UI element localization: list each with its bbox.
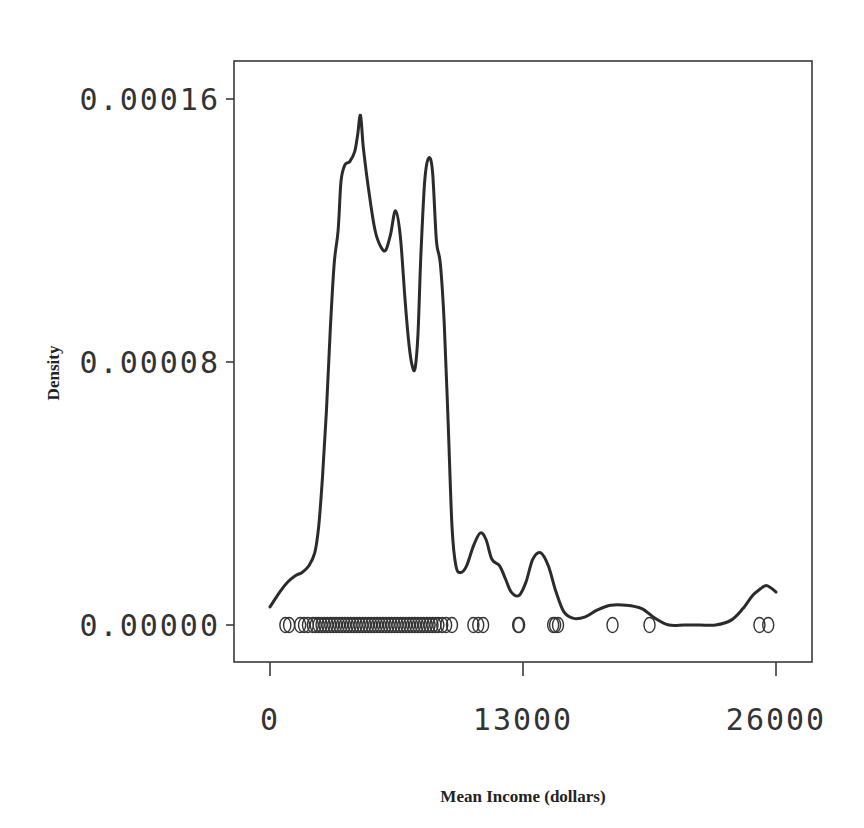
x-axis: 01300026000 [260, 662, 826, 737]
y-tick-label: 0.00008 [80, 345, 220, 380]
rug-point [607, 618, 618, 633]
x-axis-title: Mean Income (dollars) [440, 787, 605, 806]
plot-frame [234, 61, 812, 662]
density-curve [270, 115, 776, 625]
x-tick-label: 0 [260, 702, 280, 737]
y-axis: 0.000000.000080.00016 [80, 82, 234, 643]
y-tick-label: 0.00016 [80, 82, 220, 117]
rug-point [644, 618, 655, 633]
density-chart: 0.000000.000080.00016 01300026000 Mean I… [0, 0, 864, 828]
y-axis-title: Density [44, 345, 63, 400]
y-tick-label: 0.00000 [80, 608, 220, 643]
x-tick-label: 26000 [726, 702, 826, 737]
x-tick-label: 13000 [473, 702, 573, 737]
